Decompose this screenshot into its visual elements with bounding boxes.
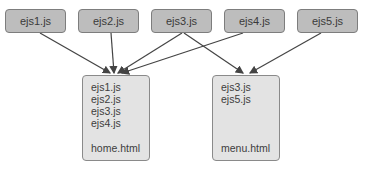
source-label: ejs3.js: [166, 15, 197, 27]
include-item: ejs5.js: [221, 93, 279, 105]
arrow-ejs2-home: [111, 33, 114, 73]
page-filename: home.html: [91, 142, 140, 154]
arrow-ejs1-home: [40, 33, 110, 73]
include-item: ejs3.js: [221, 81, 279, 93]
include-item: ejs4.js: [91, 117, 149, 129]
source-ejs5: ejs5.js: [297, 9, 358, 33]
arrow-ejs3-menu: [184, 33, 243, 73]
source-label: ejs4.js: [239, 15, 270, 27]
page-home: ejs1.js ejs2.js ejs3.js ejs4.js home.htm…: [82, 75, 150, 161]
arrow-ejs4-home: [122, 33, 243, 73]
include-item: ejs3.js: [91, 105, 149, 117]
source-label: ejs2.js: [93, 15, 124, 27]
include-item: ejs1.js: [91, 81, 149, 93]
include-item: ejs2.js: [91, 93, 149, 105]
include-list: ejs1.js ejs2.js ejs3.js ejs4.js: [91, 81, 149, 129]
include-list: ejs3.js ejs5.js: [221, 81, 279, 105]
source-label: ejs1.js: [20, 15, 51, 27]
source-ejs1: ejs1.js: [5, 9, 66, 33]
page-filename: menu.html: [221, 142, 270, 154]
source-label: ejs5.js: [312, 15, 343, 27]
source-ejs2: ejs2.js: [78, 9, 139, 33]
page-menu: ejs3.js ejs5.js menu.html: [212, 75, 280, 161]
source-ejs4: ejs4.js: [224, 9, 285, 33]
arrow-ejs3-home: [118, 33, 182, 73]
source-ejs3: ejs3.js: [151, 9, 212, 33]
arrow-ejs5-menu: [250, 33, 321, 73]
